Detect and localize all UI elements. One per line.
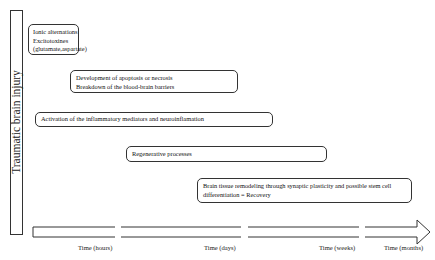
time-label-weeks: Time (weeks) xyxy=(319,244,355,251)
time-label-hours: Time (hours) xyxy=(78,244,112,251)
time-arrow-icon xyxy=(0,0,435,260)
time-label-months: Time (months) xyxy=(384,244,423,251)
time-label-days: Time (days) xyxy=(204,244,236,251)
